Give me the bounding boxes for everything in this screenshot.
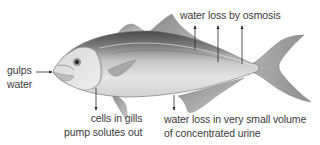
label-water-loss-osmosis: water loss by osmosis bbox=[180, 8, 281, 22]
tail-fin bbox=[252, 35, 311, 102]
label-urine-line2: of concentrated urine bbox=[164, 126, 306, 140]
label-gulps-line2: water bbox=[7, 77, 32, 91]
label-gills-line2: pump solutes out bbox=[64, 125, 142, 139]
label-gulps-water: gulps water bbox=[7, 63, 32, 91]
label-gulps-line1: gulps bbox=[7, 63, 32, 77]
label-urine-water-loss: water loss in very small volume of conce… bbox=[164, 112, 306, 140]
label-osmosis-line1: water loss by osmosis bbox=[180, 8, 281, 22]
label-gill-cells: cells in gills pump solutes out bbox=[64, 111, 142, 139]
label-urine-line1: water loss in very small volume bbox=[164, 112, 306, 126]
label-gills-line1: cells in gills bbox=[64, 111, 142, 125]
fish-head bbox=[53, 47, 101, 90]
fish-osmoregulation-diagram: gulps water water loss by osmosis cells … bbox=[0, 0, 320, 145]
